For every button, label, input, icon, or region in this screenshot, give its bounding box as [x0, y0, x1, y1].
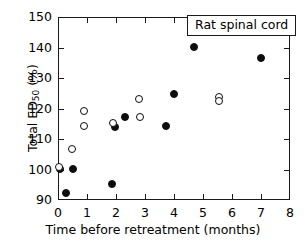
x-tick-label: 3: [134, 206, 156, 219]
x-axis-tick-top: [87, 17, 88, 23]
x-tick-label: 0: [47, 206, 69, 219]
y-axis-title-subscript: 50: [31, 90, 41, 101]
y-tick-label: 120: [6, 102, 52, 115]
data-point-filled: [162, 122, 170, 130]
chart-figure: Total ED50 (%) 90100110120130140150 0123…: [0, 0, 306, 243]
x-axis-tick: [261, 194, 262, 200]
x-tick-label: 1: [76, 206, 98, 219]
legend-label: Rat spinal cord: [195, 17, 288, 32]
data-point-filled: [121, 113, 129, 121]
x-tick-label: 5: [192, 206, 214, 219]
x-tick-label: 6: [221, 206, 243, 219]
data-point-filled: [170, 90, 178, 98]
data-point-open: [109, 119, 117, 127]
data-point-filled: [257, 54, 265, 62]
data-point-open: [135, 95, 143, 103]
y-axis-tick: [58, 139, 64, 140]
data-point-open: [68, 145, 76, 153]
x-tick-label: 4: [163, 206, 185, 219]
y-axis-tick-right: [284, 78, 290, 79]
x-tick-label: 8: [279, 206, 301, 219]
x-tick-label: 7: [250, 206, 272, 219]
x-axis-tick: [174, 194, 175, 200]
data-point-filled: [69, 165, 77, 173]
y-axis-tick: [58, 109, 64, 110]
y-tick-label: 130: [6, 71, 52, 84]
data-point-filled: [62, 189, 70, 197]
y-axis-tick: [58, 78, 64, 79]
data-point-filled: [108, 180, 116, 188]
data-point-open: [80, 107, 88, 115]
x-axis-tick: [145, 194, 146, 200]
y-axis-tick-right: [284, 170, 290, 171]
x-axis-tick: [116, 194, 117, 200]
data-point-filled: [190, 43, 198, 51]
legend-box: Rat spinal cord: [187, 15, 296, 36]
data-point-open: [215, 97, 223, 105]
data-point-open: [80, 122, 88, 130]
y-tick-label: 150: [6, 10, 52, 23]
y-tick-label: 110: [6, 132, 52, 145]
x-axis-title: Time before retreatment (months): [0, 222, 306, 237]
y-tick-label: 140: [6, 41, 52, 54]
y-axis-tick-right: [284, 109, 290, 110]
x-tick-label: 2: [105, 206, 127, 219]
data-point-open: [136, 113, 144, 121]
y-axis-tick-right: [284, 48, 290, 49]
y-axis-tick: [58, 48, 64, 49]
x-axis-tick: [232, 194, 233, 200]
plot-area: [58, 17, 290, 200]
y-axis-tick-right: [284, 139, 290, 140]
x-axis-tick-top: [174, 17, 175, 23]
y-tick-label: 90: [6, 193, 52, 206]
x-axis-tick: [203, 194, 204, 200]
x-axis-tick-top: [116, 17, 117, 23]
y-tick-label: 100: [6, 163, 52, 176]
x-axis-tick: [87, 194, 88, 200]
x-axis-tick-top: [145, 17, 146, 23]
